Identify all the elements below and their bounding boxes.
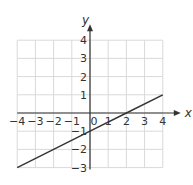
x-tick-label: 2 [123,115,130,128]
x-tick-label: 0 [91,115,98,128]
x-axis-arrow-icon [174,110,181,116]
x-tick-label: 4 [159,115,166,128]
x-tick-label: −2 [45,115,61,128]
y-tick-label: 3 [80,52,87,65]
y-tick-label: 2 [80,71,87,84]
y-tick-label: 1 [80,89,87,102]
x-tick-label: −4 [9,115,25,128]
x-tick-label: −3 [27,115,43,128]
coordinate-plane: xy−4−3−2−1012344321−1−2−3 [0,0,193,185]
y-tick-label: 4 [80,34,87,47]
y-tick-label: −3 [71,162,87,175]
y-tick-label: −2 [71,143,87,156]
x-axis-label: x [184,106,193,120]
x-tick-label: 3 [141,115,148,128]
y-axis-label: y [81,13,90,27]
